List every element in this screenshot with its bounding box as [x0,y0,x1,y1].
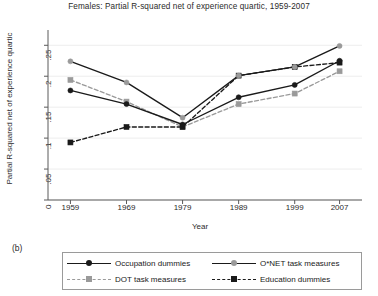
legend-marker-circle-icon [86,260,92,266]
series-marker-2-0 [68,77,73,82]
panel-label: (b) [12,243,22,253]
series-marker-3-0 [68,140,73,145]
series-marker-1-1 [124,80,129,85]
legend-label: Education dummies [260,275,330,284]
x-axis-label: Year [40,222,360,231]
legend-marker-square-icon [86,276,92,282]
series-marker-3-1 [124,124,129,129]
legend-label: Occupation dummies [115,259,190,268]
x-tick-label-4: 1999 [273,203,317,212]
legend-label: O*NET task measures [260,259,339,268]
legend-key-icon [212,258,256,269]
series-marker-0-4 [292,82,297,87]
series-line-2 [70,71,339,127]
x-tick-label-2: 1979 [161,203,205,212]
x-tick-label-0: 1959 [48,203,92,212]
series-marker-0-5 [337,58,342,63]
legend-marker-square-icon [231,276,237,282]
x-tick-label-1: 1969 [105,203,149,212]
series-marker-1-5 [337,43,342,48]
legend-entry[interactable]: DOT task measures [67,274,212,285]
figure-panel: Females: Partial R-squared net of experi… [0,0,378,296]
series-marker-0-1 [124,102,129,107]
legend-entry[interactable]: O*NET task measures [212,258,357,269]
series-marker-2-3 [236,102,241,107]
series-marker-1-4 [292,64,297,69]
series-line-0 [70,61,339,125]
series-marker-2-4 [292,91,297,96]
legend: Occupation dummiesO*NET task measuresDOT… [62,252,362,290]
legend-entry[interactable]: Education dummies [212,274,357,285]
legend-key-icon [212,274,256,285]
series-marker-0-0 [68,88,73,93]
series-marker-2-5 [337,69,342,74]
x-tick-label-5: 2007 [318,203,362,212]
series-marker-1-2 [180,115,185,120]
series-marker-0-3 [236,95,241,100]
series-marker-1-0 [68,59,73,64]
series-marker-1-3 [236,73,241,78]
legend-key-icon [67,274,111,285]
series-line-3 [70,63,339,143]
legend-marker-circle-icon [231,260,237,266]
series-marker-0-2 [180,122,185,127]
legend-label: DOT task measures [115,275,186,284]
x-tick-label-3: 1989 [217,203,261,212]
legend-key-icon [67,258,111,269]
legend-entry[interactable]: Occupation dummies [67,258,212,269]
